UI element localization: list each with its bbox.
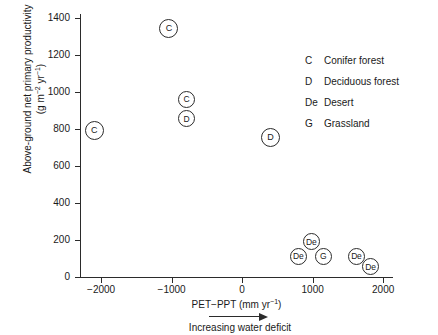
data-point-de-5: De	[303, 233, 320, 250]
legend-item-grassland: GGrassland	[305, 118, 399, 129]
legend-label: Grassland	[324, 118, 370, 129]
legend-key: G	[305, 118, 324, 129]
legend-item-conifer-forest: CConifer forest	[305, 55, 399, 66]
data-point-d-3: D	[178, 110, 195, 127]
legend-label: Desert	[324, 97, 353, 108]
legend-key: C	[305, 55, 324, 66]
y-tick-label: 400	[26, 198, 70, 208]
y-axis-title: Above-ground net primary productivity (g…	[21, 0, 47, 189]
data-point-c-2: C	[178, 91, 195, 108]
x-tick-label: 2000	[353, 285, 413, 295]
water-deficit-annotation: Increasing water deficit	[150, 312, 330, 333]
data-point-de-6: De	[290, 248, 307, 265]
x-tick-label: 0	[212, 285, 272, 295]
x-axis-title: PET−PPT (mm yr−1)	[80, 299, 393, 310]
data-point-g-7: G	[315, 248, 332, 265]
y-tick-label: 200	[26, 235, 70, 245]
x-tick	[172, 278, 173, 283]
x-tick-label: 1000	[283, 285, 343, 295]
legend-item-deciduous-forest: DDeciduous forest	[305, 76, 399, 87]
water-deficit-label: Increasing water deficit	[150, 322, 330, 333]
plot-area: CCCDDDeDeGDeDe	[80, 14, 390, 277]
legend-key: D	[305, 76, 324, 87]
scatter-chart-figure: 0200400600800100012001400 −2000−10000100…	[0, 0, 438, 335]
y-axis-title-line2: (g m−2 yr−1)	[34, 0, 47, 189]
right-arrow-icon	[209, 312, 271, 321]
data-point-c-1: C	[159, 19, 178, 38]
x-axis-line	[80, 277, 393, 278]
x-tick-label: −1000	[142, 285, 202, 295]
x-tick-label: −2000	[71, 285, 131, 295]
x-tick	[101, 278, 102, 283]
y-tick-label: 0	[26, 272, 70, 282]
x-tick	[313, 278, 314, 283]
legend-item-desert: DeDesert	[305, 97, 399, 108]
data-point-d-4: D	[261, 128, 280, 147]
legend: CConifer forestDDeciduous forestDeDesert…	[305, 55, 399, 139]
data-point-c-0: C	[85, 121, 104, 140]
y-axis-title-line1: Above-ground net primary productivity	[22, 5, 33, 174]
x-tick	[242, 278, 243, 283]
legend-label: Deciduous forest	[324, 76, 399, 87]
legend-label: Conifer forest	[324, 55, 384, 66]
x-tick	[383, 278, 384, 283]
y-tick	[75, 277, 80, 278]
data-point-de-9: De	[362, 258, 379, 275]
legend-key: De	[305, 97, 324, 108]
